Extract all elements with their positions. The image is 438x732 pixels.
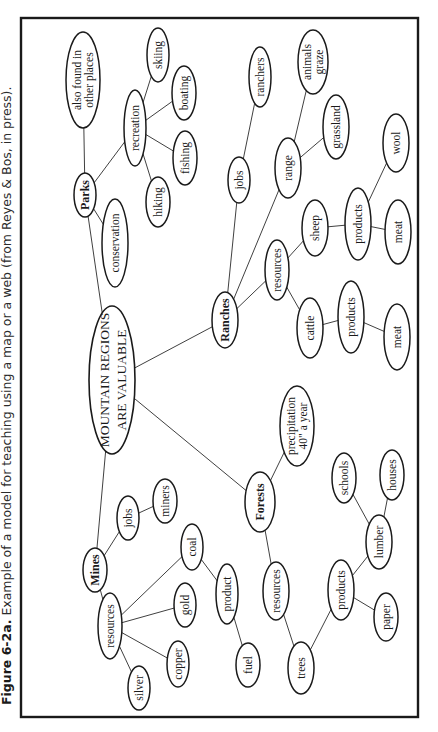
node-sheep: sheep	[302, 200, 328, 256]
node-label: boating	[178, 76, 191, 111]
node-label: silver	[133, 675, 145, 701]
node-ranch-resources: resources	[265, 240, 289, 300]
node-label: range	[282, 155, 295, 181]
node-label: trees	[295, 657, 307, 679]
node-wool: wool	[383, 114, 409, 172]
node-label: product	[221, 576, 234, 612]
node-hiking: hiking	[146, 177, 170, 227]
node-conservation: conservation	[102, 199, 128, 287]
node-label: paper	[380, 604, 393, 630]
node-label: resources	[270, 569, 282, 613]
nodes-layer: MOUNTAIN REGIONSARE VALUABLEParksalso fo…	[66, 28, 411, 710]
node-label: resources	[104, 604, 116, 648]
node-label: Ranches	[218, 298, 232, 342]
node-label: wool	[390, 132, 402, 155]
node-label: ranchers	[254, 57, 266, 96]
node-label: houses	[386, 459, 398, 491]
node-miners: miners	[153, 479, 177, 523]
node-trees: trees	[288, 642, 314, 694]
node-grassland: grassland	[323, 95, 349, 159]
node-recreation: recreation	[124, 90, 146, 166]
node-paper: paper	[374, 593, 398, 641]
node-label: copper	[172, 648, 185, 679]
node-cattle-products: products	[338, 281, 364, 353]
node-label: resources	[271, 248, 283, 292]
node-mine-jobs: jobs	[117, 496, 139, 540]
node-range: range	[275, 138, 301, 198]
node-forest-products: products	[328, 560, 354, 620]
node-label: schools	[338, 460, 350, 495]
concept-map-figure: Figure 6-2a. Example of a model for teac…	[0, 0, 438, 732]
node-mine-product: product	[216, 564, 238, 624]
node-main: MOUNTAIN REGIONSARE VALUABLE	[89, 306, 135, 454]
node-label: skiing	[152, 41, 165, 69]
caption-text: Example of a model for teaching using a …	[0, 87, 14, 620]
node-cattle: cattle	[297, 298, 323, 358]
node-label: gold	[179, 595, 192, 616]
node-label: jobs	[122, 508, 135, 529]
node-ranch-jobs: jobs	[228, 157, 250, 203]
node-coal: coal	[181, 524, 203, 570]
node-label: jobs	[233, 170, 246, 191]
node-label: precipitation40" a year	[285, 397, 310, 455]
node-schools: schools	[332, 453, 356, 503]
node-label: coal	[186, 537, 198, 556]
node-label: cattle	[304, 316, 316, 341]
node-boating: boating	[172, 66, 196, 120]
node-lumber: lumber	[366, 515, 392, 569]
node-forest-resources: resources	[263, 562, 289, 620]
node-mines: Mines	[83, 548, 107, 592]
node-fuel: fuel	[236, 643, 260, 687]
figure-caption: Figure 6-2a. Example of a model for teac…	[0, 87, 14, 705]
node-forests: Forests	[245, 472, 275, 532]
node-skiing: skiing	[147, 28, 169, 82]
node-label: fishing	[179, 142, 192, 174]
node-label: miners	[159, 485, 171, 517]
node-cattle-meat: meat	[384, 304, 410, 370]
node-label: products	[345, 297, 358, 337]
node-parks: Parks	[74, 173, 96, 217]
node-sheep-meat: meat	[385, 200, 411, 264]
figure-label: Figure 6-2a.	[0, 620, 14, 705]
node-also-found: also found inother places	[66, 32, 100, 128]
node-label: recreation	[129, 105, 141, 151]
node-ranchers: ranchers	[249, 47, 271, 107]
node-label: Parks	[78, 180, 92, 210]
node-copper: copper	[167, 641, 189, 687]
node-silver: silver	[128, 666, 150, 710]
node-label: Mines	[88, 554, 102, 586]
node-label: conservation	[109, 213, 121, 272]
node-ranches: Ranches	[212, 292, 238, 348]
node-label: products	[335, 570, 348, 610]
node-label: sheep	[309, 215, 322, 241]
node-label: meat	[391, 325, 403, 348]
node-label: hiking	[152, 187, 165, 217]
node-label: grassland	[330, 105, 343, 149]
node-label: also found inother places	[71, 50, 96, 110]
node-sheep-products: products	[345, 188, 371, 260]
node-precipitation: precipitation40" a year	[280, 386, 314, 466]
node-animals-graze: animalsgraze	[298, 30, 328, 94]
node-gold: gold	[174, 583, 196, 627]
node-label: lumber	[373, 526, 385, 559]
node-houses: houses	[380, 450, 404, 500]
node-label: products	[352, 204, 365, 244]
node-label: fuel	[242, 656, 254, 674]
node-label: Forests	[253, 483, 267, 520]
node-fishing: fishing	[173, 131, 197, 185]
node-label: meat	[392, 220, 404, 243]
node-mine-resources: resources	[98, 593, 122, 659]
